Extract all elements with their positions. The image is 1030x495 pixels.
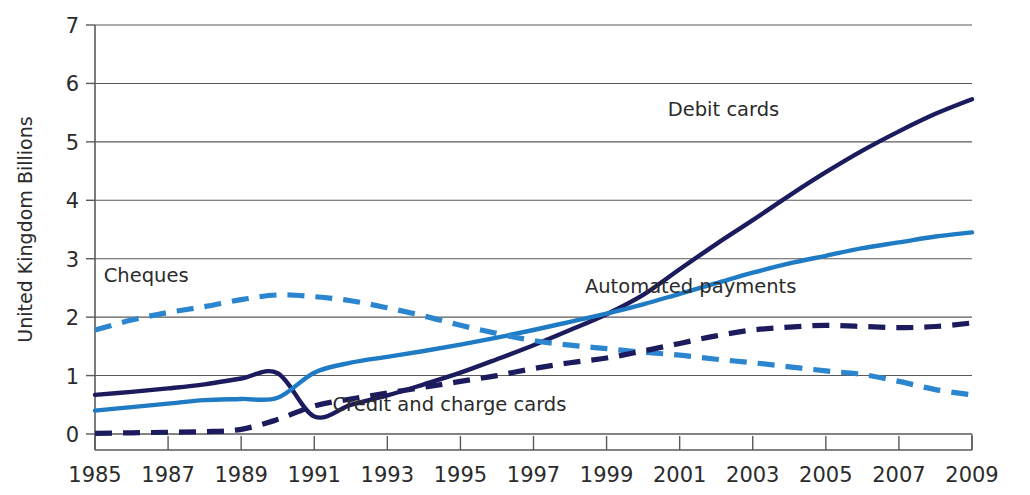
series-line-credit-and-charge-cards [95, 323, 972, 433]
x-tick-label: 1995 [434, 463, 487, 487]
x-tick-labels: 1985198719891991199319951997199920012003… [68, 463, 998, 487]
data-series-group [95, 99, 972, 433]
x-tick-label: 2001 [653, 463, 706, 487]
y-axis [86, 25, 95, 450]
x-axis [95, 434, 972, 450]
x-tick-label: 2005 [799, 463, 852, 487]
x-tick-label: 1985 [68, 463, 121, 487]
series-label-cheques: Cheques [104, 264, 189, 287]
line-chart: 01234567 1985198719891991199319951997199… [0, 0, 1030, 495]
x-tick-label: 1989 [214, 463, 267, 487]
x-tick-label: 1999 [580, 463, 633, 487]
x-tick-label: 1997 [507, 463, 560, 487]
y-tick-label: 6 [66, 72, 79, 96]
x-tick-label: 2007 [872, 463, 925, 487]
x-tick-label: 2009 [945, 463, 998, 487]
series-label-debit-cards: Debit cards [668, 98, 780, 121]
y-tick-label: 1 [66, 365, 79, 389]
series-label-credit-and-charge-cards: Credit and charge cards [333, 393, 567, 416]
y-tick-labels: 01234567 [66, 14, 79, 447]
y-tick-label: 5 [66, 131, 79, 155]
gridlines [95, 25, 972, 434]
y-axis-title-group: United Kingdom Billions [14, 116, 36, 342]
chart-page: 01234567 1985198719891991199319951997199… [0, 0, 1030, 495]
y-tick-label: 7 [66, 14, 79, 38]
x-tick-label: 1991 [288, 463, 341, 487]
y-tick-label: 4 [66, 189, 79, 213]
x-tick-label: 1993 [361, 463, 414, 487]
y-tick-label: 0 [66, 423, 79, 447]
y-axis-title: United Kingdom Billions [14, 116, 36, 342]
x-tick-label: 2003 [726, 463, 779, 487]
x-tick-label: 1987 [141, 463, 194, 487]
y-tick-label: 3 [66, 248, 79, 272]
series-label-automated-payments: Automated payments [585, 275, 796, 298]
series-labels-group: Debit cardsAutomated paymentsChequesCred… [104, 98, 797, 416]
y-tick-label: 2 [66, 306, 79, 330]
